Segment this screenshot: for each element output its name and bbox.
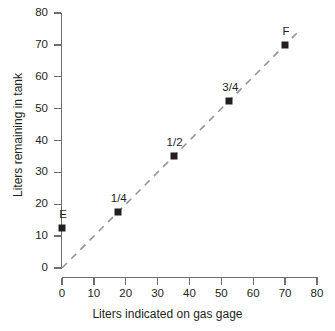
x-tick-label: 0 [47,288,77,300]
y-tick [54,172,61,173]
y-tick-label: 40 [22,135,48,147]
x-tick-label: 60 [238,288,268,300]
x-tick [284,278,285,285]
x-tick-label: 30 [143,288,173,300]
y-axis-title: Liters remaining in tank [11,35,25,235]
data-point-marker [282,41,289,48]
x-tick [316,278,317,285]
y-tick-label: 30 [22,166,48,178]
y-tick [54,12,61,13]
y-tick-label: 70 [22,39,48,51]
data-point-label: 1/2 [167,136,183,148]
x-tick [221,278,222,285]
x-tick [189,278,190,285]
data-point-marker [170,153,177,160]
y-tick-label: 60 [22,71,48,83]
y-tick [54,108,61,109]
y-tick-label: 80 [22,7,48,19]
x-tick-label: 80 [302,288,332,300]
x-tick [253,278,254,285]
y-tick [54,235,61,236]
x-tick [93,278,94,285]
y-tick-label: 10 [22,230,48,242]
y-tick-label: 0 [22,262,48,274]
y-tick [54,76,61,77]
x-tick [125,278,126,285]
y-tick [54,140,61,141]
y-tick [54,204,61,205]
y-tick-label: 50 [22,103,48,115]
data-point-marker [59,225,66,232]
data-point-label: F [283,25,290,37]
scatter-chart: 01020304050607080 01020304050607080 E1/4… [0,0,335,331]
x-axis-title: Liters indicated on gas gage [0,307,335,321]
x-tick-label: 10 [79,288,109,300]
x-tick [157,278,158,285]
x-tick [61,278,62,285]
data-point-label: E [59,208,67,220]
x-tick-label: 40 [175,288,205,300]
data-point-label: 1/4 [111,192,127,204]
data-point-marker [226,97,233,104]
x-tick-label: 20 [111,288,141,300]
y-tick-label: 20 [22,198,48,210]
y-tick [54,44,61,45]
data-point-label: 3/4 [222,81,238,93]
y-tick [54,267,61,268]
data-point-marker [114,209,121,216]
x-tick-label: 50 [206,288,236,300]
x-tick-label: 70 [270,288,300,300]
